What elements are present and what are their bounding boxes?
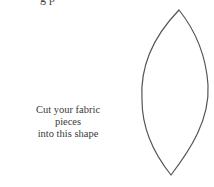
lens-shape-illustration bbox=[0, 0, 214, 187]
lens-shape-outline bbox=[142, 10, 208, 175]
